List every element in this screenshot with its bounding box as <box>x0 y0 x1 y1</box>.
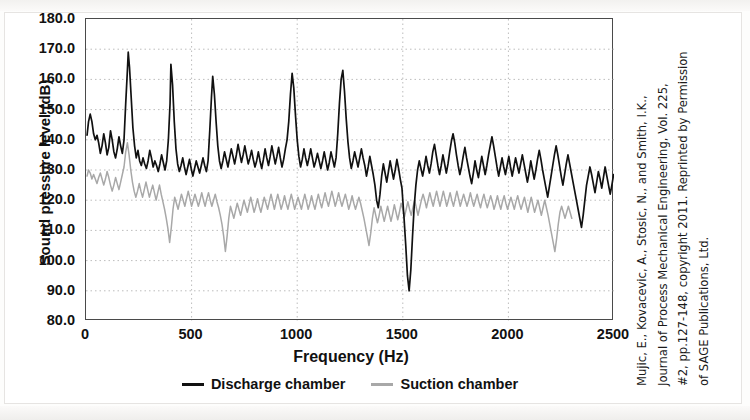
scan-edge-bottom <box>0 406 750 420</box>
x-tick-label: 2500 <box>597 326 629 342</box>
plot-svg <box>86 19 614 321</box>
series-line <box>87 52 614 291</box>
y-tick-label: 160.0 <box>39 70 75 86</box>
y-tick-label: 100.0 <box>39 252 75 268</box>
legend-line-icon <box>371 383 393 386</box>
x-tick-label: 1500 <box>386 326 418 342</box>
legend-line-icon <box>182 383 204 386</box>
legend-label: Suction chamber <box>400 376 518 392</box>
legend-label: Discharge chamber <box>211 376 346 392</box>
y-tick-label: 120.0 <box>39 191 75 207</box>
y-axis-tick-labels: 80.090.0100.0110.0120.0130.0140.0150.016… <box>13 18 79 320</box>
plot-wrapper: 80.090.0100.0110.0120.0130.0140.0150.016… <box>85 18 613 320</box>
y-tick-label: 180.0 <box>39 10 75 26</box>
figure-page: Sound pressure level (dB) 80.090.0100.01… <box>0 0 750 420</box>
y-tick-label: 110.0 <box>40 221 76 237</box>
y-tick-label: 130.0 <box>39 161 75 177</box>
legend-item[interactable]: Discharge chamber <box>182 376 346 392</box>
legend-item[interactable]: Suction chamber <box>371 376 518 392</box>
y-tick-label: 80.0 <box>47 312 75 328</box>
plot-area <box>85 18 613 320</box>
x-axis-tick-labels: 05001000150020002500 <box>85 326 613 348</box>
y-tick-label: 170.0 <box>39 40 75 56</box>
x-tick-label: 0 <box>81 326 89 342</box>
x-tick-label: 1000 <box>280 326 312 342</box>
citation-text: Mujic, E., Kovacevic, A., Stosic, N., an… <box>632 16 714 386</box>
scan-edge-top <box>0 0 750 11</box>
spectrum-chart: Sound pressure level (dB) 80.090.0100.01… <box>8 14 630 402</box>
x-tick-label: 500 <box>178 326 202 342</box>
chart-legend: Discharge chamberSuction chamber <box>86 376 614 392</box>
y-tick-label: 90.0 <box>47 282 75 298</box>
series-paths <box>87 52 614 291</box>
citation-block: Mujic, E., Kovacevic, A., Stosic, N., an… <box>632 16 744 400</box>
x-tick-label: 2000 <box>491 326 523 342</box>
y-tick-label: 140.0 <box>39 131 75 147</box>
y-tick-label: 150.0 <box>39 101 75 117</box>
x-axis-label: Frequency (Hz) <box>86 348 616 366</box>
